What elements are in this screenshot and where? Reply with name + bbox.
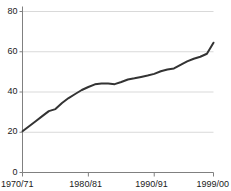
data-series-line xyxy=(23,43,214,132)
gridlines xyxy=(23,12,214,133)
x-axis-tick-label: 1970/71 xyxy=(1,180,34,189)
x-axis-ticks xyxy=(23,173,214,177)
y-axis-tick-label: 60 xyxy=(7,47,17,56)
chart-canvas xyxy=(0,0,231,191)
x-axis-tick-label: 1999/00 xyxy=(196,180,229,189)
x-axis-tick-label: 1990/91 xyxy=(135,180,168,189)
y-axis-tick-label: 20 xyxy=(7,127,17,136)
line-chart: 806040200 1970/711980/811990/911999/00 xyxy=(0,0,231,191)
x-axis-tick-label: 1980/81 xyxy=(69,180,102,189)
y-axis-tick-label: 40 xyxy=(7,87,17,96)
y-axis-tick-label: 0 xyxy=(12,168,17,177)
y-axis-tick-label: 80 xyxy=(7,7,17,16)
